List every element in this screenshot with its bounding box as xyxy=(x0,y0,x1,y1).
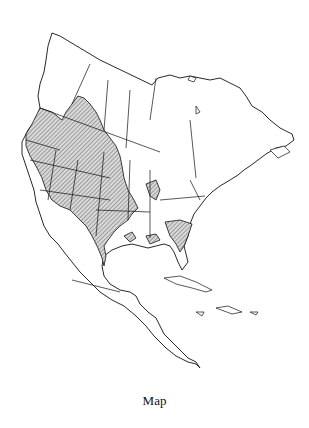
north-america-map xyxy=(0,0,309,428)
map-caption: Map xyxy=(0,393,309,409)
puerto-rico-island xyxy=(250,312,258,315)
jamaica-island xyxy=(196,312,204,316)
cuba-island xyxy=(164,276,212,292)
map-figure: Map xyxy=(0,0,309,428)
hispaniola-island xyxy=(216,306,242,314)
